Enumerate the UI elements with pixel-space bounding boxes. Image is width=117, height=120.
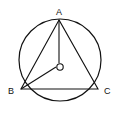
center-point-o	[57, 64, 63, 70]
segment-bo	[21, 67, 56, 89]
label-b: B	[8, 86, 14, 96]
label-a: A	[56, 7, 62, 17]
circumscribed-triangle-diagram: A B C	[0, 0, 117, 120]
label-c: C	[104, 86, 111, 96]
